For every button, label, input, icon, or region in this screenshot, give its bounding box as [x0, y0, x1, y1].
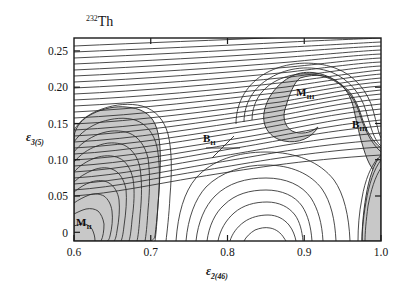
label-minimum-two-sub: II	[86, 223, 92, 231]
x-tick-label: 0.7	[144, 246, 159, 258]
x-tick-label: 0.8	[220, 246, 235, 258]
x-tick-label: 0.9	[297, 246, 312, 258]
figure-container: 232Th	[0, 0, 404, 287]
x-axis-label-sub: 2(46)	[210, 272, 228, 281]
label-minimum-three-main: M	[296, 86, 307, 98]
y-tick-label: 0.15	[48, 118, 68, 130]
label-minimum-three-sub: III	[306, 93, 314, 101]
y-tick-label: 0.10	[48, 154, 68, 166]
y-tick-label: 0.20	[48, 81, 68, 93]
x-tick-label: 1.0	[374, 246, 389, 258]
contour-plot: 232Th	[0, 0, 404, 287]
y-tick-label: 0.25	[48, 45, 68, 57]
label-minimum-two-main: M	[76, 216, 87, 228]
label-barrier-three-sub: III	[359, 125, 367, 133]
x-tick-label: 0.6	[67, 246, 82, 258]
title-element: Th	[98, 14, 114, 29]
label-barrier-two-sub: II	[210, 139, 216, 147]
y-tick-label: 0	[62, 227, 68, 239]
y-tick-label: 0.05	[48, 190, 68, 202]
y-axis-label-sub: 3(5)	[30, 138, 44, 147]
title-mass-number: 232	[86, 14, 98, 23]
